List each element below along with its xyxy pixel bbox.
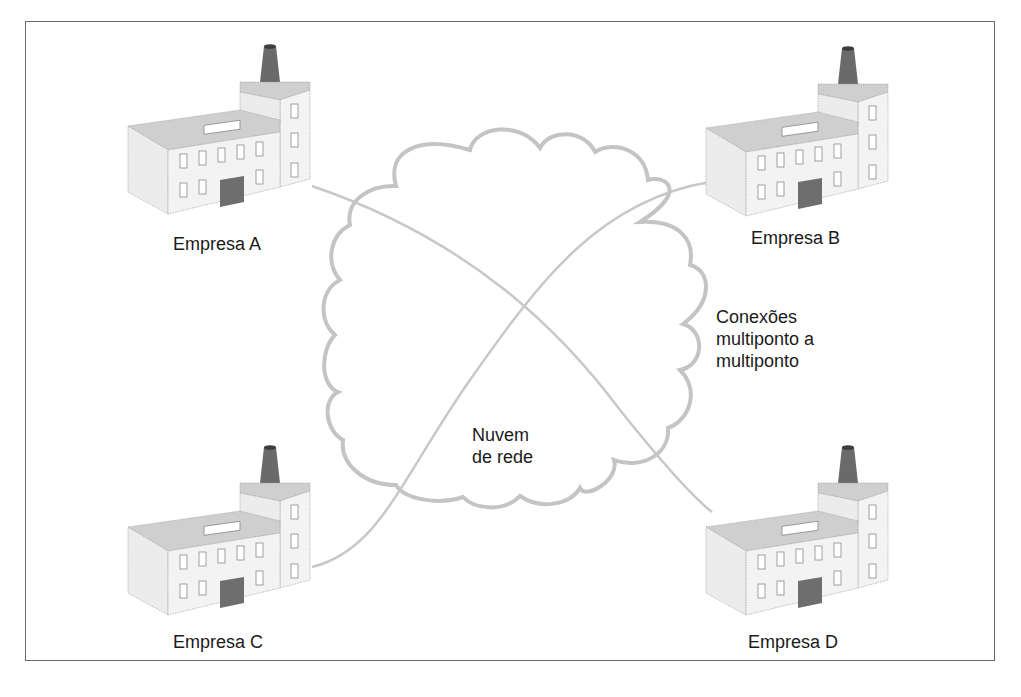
factory-icon-b [706,46,888,216]
connections-label-line-1: Conexões [716,306,814,328]
connections-label-line-3: multiponto [716,350,814,372]
node-label-empresa-d: Empresa D [748,631,838,653]
node-label-empresa-b: Empresa B [751,227,840,249]
factory-icon-a [128,44,310,214]
connections-label: Conexões multiponto a multiponto [716,306,814,372]
cloud-label: Nuvem de rede [472,424,533,468]
node-label-empresa-c: Empresa C [173,631,263,653]
connections-label-line-2: multiponto a [716,328,814,350]
factory-icon-c [128,445,310,615]
cloud-label-line-2: de rede [472,446,533,468]
cloud-label-line-1: Nuvem [472,424,533,446]
factory-icon-d [706,445,888,615]
node-label-empresa-a: Empresa A [173,233,261,255]
link-c-b [312,182,710,567]
network-diagram [0,0,1021,697]
